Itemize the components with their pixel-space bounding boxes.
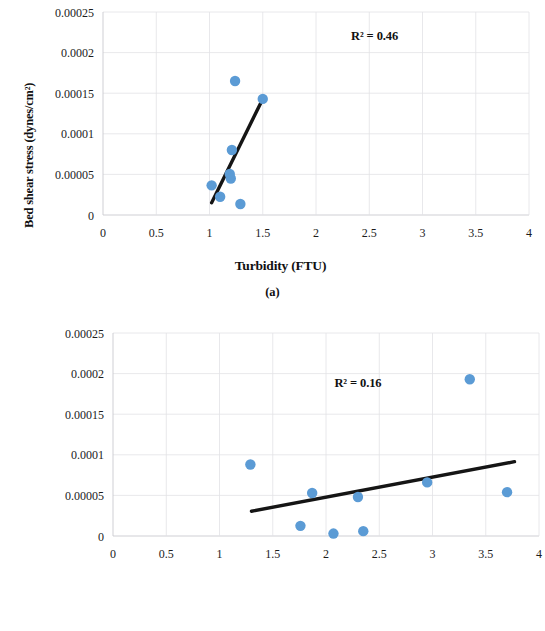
r-squared-annotation: R² = 0.16 [334,376,381,390]
data-point [258,94,268,104]
data-point [206,180,216,190]
y-tick-label: 0 [98,530,104,544]
x-tick-label: 0 [110,547,116,561]
x-tick-label: 2.5 [362,226,377,240]
figure-container: 00.000050.00010.000150.00020.0002500.511… [0,0,545,631]
x-tick-label: 3 [420,226,426,240]
data-point [328,528,338,538]
trendline [251,462,514,512]
x-tick-label: 1.5 [265,547,280,561]
data-point [230,76,240,86]
x-tick-label: 2.5 [372,547,387,561]
y-tick-label: 0.00025 [65,327,104,341]
x-tick-label: 3.5 [478,547,493,561]
x-tick-label: 4 [536,547,542,561]
x-tick-label: 1 [217,547,223,561]
x-tick-label: 1.5 [255,226,270,240]
data-point [295,521,305,531]
chart-panel-a: 00.000050.00010.000150.00020.0002500.511… [0,0,545,310]
y-tick-label: 0.0002 [61,46,94,60]
y-axis-label-a: Bed shear stress (dynes/cm²) [22,83,37,228]
data-point [307,488,317,498]
x-tick-label: 1 [207,226,213,240]
data-point [358,526,368,536]
data-point [227,145,237,155]
subfigure-caption-a: (a) [0,285,545,300]
y-tick-label: 0.0001 [71,448,104,462]
y-tick-label: 0.0002 [71,367,104,381]
x-tick-label: 3.5 [468,226,483,240]
x-axis-label-a: Turbidity (FTU) [8,258,545,274]
x-tick-label: 3 [430,547,436,561]
y-tick-label: 0 [88,209,94,223]
y-tick-label: 0.0001 [61,127,94,141]
y-tick-label: 0.00005 [55,168,94,182]
data-point [465,374,475,384]
y-tick-label: 0.00025 [55,6,94,20]
y-tick-label: 0.00015 [65,408,104,422]
trendline [212,99,263,203]
x-tick-label: 0 [100,226,106,240]
x-tick-label: 4 [526,226,532,240]
x-tick-label: 0.5 [159,547,174,561]
x-tick-label: 2 [323,547,329,561]
y-tick-label: 0.00005 [65,489,104,503]
x-tick-label: 0.5 [149,226,164,240]
scatter-plot-b: 00.000050.00010.000150.00020.0002500.511… [0,310,545,631]
y-tick-label: 0.00015 [55,87,94,101]
chart-panel-b: 00.000050.00010.000150.00020.0002500.511… [0,310,545,631]
data-point [245,459,255,469]
data-point [215,192,225,202]
data-point [353,492,363,502]
data-point [226,173,236,183]
data-point [422,477,432,487]
r-squared-annotation: R² = 0.46 [351,29,398,43]
x-tick-label: 2 [313,226,319,240]
data-point [235,199,245,209]
data-point [502,487,512,497]
